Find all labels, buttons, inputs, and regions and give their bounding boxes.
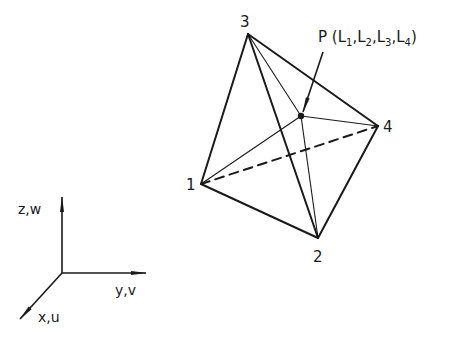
z-axis-label: z,w: [18, 201, 41, 217]
vertex-label-3: 3: [240, 13, 250, 31]
vertex-label-1: 1: [186, 176, 196, 194]
edge-1-3: [201, 34, 248, 184]
edge-1-2: [201, 184, 318, 238]
subdivision-lines: [201, 34, 378, 238]
y-axis-label: y,v: [115, 282, 136, 298]
vertex-label-4: 4: [383, 118, 393, 136]
edge-3-2: [248, 34, 318, 238]
edge-2-4: [318, 126, 378, 238]
p-to-1: [201, 116, 301, 184]
tetrahedron-edges: [201, 34, 378, 238]
point-p-prefix: P (L: [318, 28, 347, 46]
p-to-2: [301, 116, 318, 238]
p-to-3: [248, 34, 301, 116]
point-p-pointer-arrow: [303, 52, 323, 112]
vertex-label-2: 2: [313, 248, 323, 266]
tetrahedron-diagram: 3 4 1 2 P (L1,L2,L3,L4) z,w y,v x,u: [0, 0, 458, 339]
point-p-dot: [298, 113, 304, 119]
point-p-label: P (L1,L2,L3,L4): [318, 28, 417, 48]
x-axis-label: x,u: [38, 309, 60, 325]
